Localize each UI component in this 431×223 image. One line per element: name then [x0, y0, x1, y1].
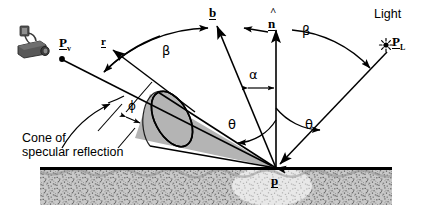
theta-left-label: θ: [228, 118, 236, 132]
viewer-point-label: Pv: [59, 36, 71, 53]
cone-caption: Cone of specular reflection: [22, 132, 123, 159]
theta-right-text: θ: [305, 117, 313, 132]
specular-reflection-diagram: b ^ n r Pv Light PL α β β ϕ θ θ: [0, 0, 431, 223]
normal-vector-text: n: [268, 17, 275, 31]
beta-right-label: β: [302, 24, 310, 38]
viewer-point-dot: [59, 56, 65, 62]
bisector-vector-text: b: [209, 6, 216, 20]
n-to-b-arrow: [244, 28, 268, 32]
light-label: Light: [374, 8, 401, 22]
surface-point-label: p: [271, 174, 278, 188]
light-point-subscript: L: [400, 43, 405, 52]
alpha-text: α: [249, 67, 258, 82]
light-label-text: Light: [374, 7, 401, 21]
cone-caption-line1: Cone of: [22, 132, 123, 146]
phi-opening-arc-2: [108, 96, 124, 103]
light-point-label: PL: [392, 35, 405, 52]
incident-light-ray: [280, 52, 387, 164]
cone-caption-line2: specular reflection: [22, 146, 123, 160]
normal-hat-icon: ^: [270, 6, 276, 18]
alpha-label: α: [249, 68, 258, 82]
reflection-vector-text: r: [101, 36, 106, 48]
viewer-point-subscript: v: [67, 44, 71, 53]
beta-left-text: β: [162, 43, 170, 58]
beta-left-arc-back: [104, 36, 160, 72]
reflection-vector-label: r: [101, 36, 106, 48]
theta-right-label: θ: [305, 118, 313, 132]
surface-point-text: p: [271, 174, 278, 188]
phi-text: ϕ: [128, 99, 136, 113]
light-point-text: P: [392, 35, 400, 49]
phi-double-arrow: [126, 117, 140, 123]
theta-right-arc: [276, 108, 320, 130]
light-star-icon: [380, 39, 393, 52]
normal-vector-label: ^ n: [268, 14, 275, 31]
camera-icon: [18, 26, 49, 58]
ground-surface: [38, 166, 396, 206]
viewer-point-text: P: [59, 36, 67, 50]
bisector-vector-label: b: [209, 6, 216, 20]
theta-left-text: θ: [228, 117, 236, 132]
phi-label: ϕ: [128, 100, 136, 113]
beta-right-text: β: [302, 23, 310, 38]
specular-cone: [135, 85, 276, 168]
beta-left-arc: [104, 28, 208, 72]
diagram-canvas: [0, 0, 431, 223]
beta-left-label: β: [162, 44, 170, 58]
